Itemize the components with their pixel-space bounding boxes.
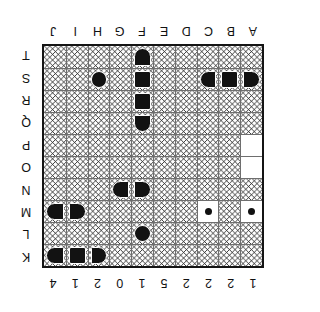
grid-cell[interactable]: [197, 178, 219, 200]
grid-cell[interactable]: [66, 68, 88, 90]
grid-cell[interactable]: [88, 222, 110, 244]
grid-cell[interactable]: [44, 200, 66, 222]
grid-cell[interactable]: [66, 244, 88, 266]
grid-cell[interactable]: [153, 134, 175, 156]
grid-cell[interactable]: [240, 178, 262, 200]
grid-cell[interactable]: [240, 200, 262, 222]
grid-cell[interactable]: [218, 46, 240, 68]
grid-cell[interactable]: [197, 134, 219, 156]
grid-cell[interactable]: [109, 68, 131, 90]
grid-cell[interactable]: [153, 222, 175, 244]
grid-cell[interactable]: [240, 90, 262, 112]
grid-cell[interactable]: [88, 178, 110, 200]
grid-cell[interactable]: [109, 156, 131, 178]
grid-cell[interactable]: [240, 46, 262, 68]
grid-cell[interactable]: [44, 156, 66, 178]
grid-cell[interactable]: [218, 244, 240, 266]
grid-cell[interactable]: [153, 200, 175, 222]
grid-cell[interactable]: [175, 68, 197, 90]
grid-cell[interactable]: [197, 68, 219, 90]
grid-cell[interactable]: [197, 112, 219, 134]
grid-cell[interactable]: [175, 112, 197, 134]
grid-cell[interactable]: [197, 156, 219, 178]
grid-cell[interactable]: [131, 222, 153, 244]
grid-cell[interactable]: [109, 178, 131, 200]
grid-cell[interactable]: [88, 90, 110, 112]
grid-cell[interactable]: [44, 222, 66, 244]
grid-cell[interactable]: [44, 178, 66, 200]
grid-cell[interactable]: [197, 222, 219, 244]
grid-cell[interactable]: [240, 244, 262, 266]
grid-cell[interactable]: [109, 90, 131, 112]
grid-cell[interactable]: [66, 200, 88, 222]
grid-cell[interactable]: [240, 134, 262, 156]
grid-cell[interactable]: [109, 112, 131, 134]
grid-cell[interactable]: [153, 90, 175, 112]
grid-cell[interactable]: [88, 68, 110, 90]
grid-cell[interactable]: [44, 46, 66, 68]
grid-cell[interactable]: [218, 156, 240, 178]
grid-cell[interactable]: [88, 46, 110, 68]
grid-cell[interactable]: [66, 46, 88, 68]
grid-cell[interactable]: [218, 134, 240, 156]
grid-cell[interactable]: [131, 200, 153, 222]
grid-cell[interactable]: [44, 244, 66, 266]
grid-cell[interactable]: [109, 134, 131, 156]
grid-cell[interactable]: [66, 112, 88, 134]
grid-cell[interactable]: [131, 112, 153, 134]
battleship-grid[interactable]: [42, 44, 264, 268]
grid-cell[interactable]: [240, 222, 262, 244]
grid-cell[interactable]: [66, 222, 88, 244]
grid-cell[interactable]: [240, 68, 262, 90]
grid-cell[interactable]: [131, 156, 153, 178]
grid-cell[interactable]: [175, 90, 197, 112]
grid-cell[interactable]: [131, 90, 153, 112]
grid-cell[interactable]: [44, 68, 66, 90]
grid-cell[interactable]: [131, 46, 153, 68]
grid-cell[interactable]: [131, 178, 153, 200]
grid-cell[interactable]: [218, 112, 240, 134]
grid-cell[interactable]: [175, 134, 197, 156]
grid-cell[interactable]: [218, 68, 240, 90]
grid-cell[interactable]: [240, 156, 262, 178]
grid-cell[interactable]: [240, 112, 262, 134]
grid-cell[interactable]: [153, 178, 175, 200]
grid-cell[interactable]: [88, 244, 110, 266]
grid-cell[interactable]: [109, 244, 131, 266]
grid-cell[interactable]: [175, 178, 197, 200]
grid-cell[interactable]: [153, 156, 175, 178]
grid-cell[interactable]: [88, 156, 110, 178]
grid-cell[interactable]: [153, 68, 175, 90]
grid-cell[interactable]: [197, 90, 219, 112]
grid-cell[interactable]: [197, 46, 219, 68]
grid-cell[interactable]: [44, 90, 66, 112]
grid-cell[interactable]: [131, 244, 153, 266]
grid-cell[interactable]: [44, 134, 66, 156]
grid-cell[interactable]: [197, 200, 219, 222]
grid-cell[interactable]: [131, 68, 153, 90]
grid-cell[interactable]: [153, 46, 175, 68]
grid-cell[interactable]: [66, 178, 88, 200]
grid-cell[interactable]: [153, 244, 175, 266]
grid-cell[interactable]: [218, 222, 240, 244]
grid-cell[interactable]: [197, 244, 219, 266]
grid-cell[interactable]: [109, 46, 131, 68]
grid-cell[interactable]: [109, 222, 131, 244]
grid-cell[interactable]: [175, 46, 197, 68]
grid-cell[interactable]: [175, 222, 197, 244]
grid-cell[interactable]: [66, 156, 88, 178]
grid-cell[interactable]: [88, 112, 110, 134]
grid-cell[interactable]: [88, 200, 110, 222]
grid-cell[interactable]: [66, 90, 88, 112]
grid-cell[interactable]: [218, 90, 240, 112]
grid-cell[interactable]: [66, 134, 88, 156]
grid-cell[interactable]: [218, 178, 240, 200]
grid-cell[interactable]: [175, 156, 197, 178]
grid-cell[interactable]: [88, 134, 110, 156]
grid-cell[interactable]: [175, 200, 197, 222]
grid-cell[interactable]: [131, 134, 153, 156]
grid-cell[interactable]: [218, 200, 240, 222]
grid-cell[interactable]: [44, 112, 66, 134]
grid-cell[interactable]: [109, 200, 131, 222]
grid-cell[interactable]: [153, 112, 175, 134]
